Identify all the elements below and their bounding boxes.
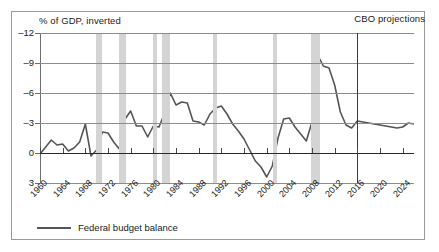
x-tick-label: 2020 [368, 178, 389, 199]
x-tick-label: 1980 [141, 178, 162, 199]
x-tick-labels-group: 1960196419681972197619801984198819921996… [0, 0, 439, 252]
x-tick-label: 1960 [28, 178, 49, 199]
x-tick-label: 1976 [119, 178, 140, 199]
chart-legend: Federal budget balance [37, 222, 178, 233]
legend-label-federal-budget-balance: Federal budget balance [78, 222, 178, 233]
x-tick-label: 1996 [232, 178, 253, 199]
x-tick-label: 2004 [277, 178, 298, 199]
legend-line-swatch [37, 227, 71, 229]
x-tick-label: 2016 [345, 178, 366, 199]
x-tick-label: 2000 [255, 178, 276, 199]
x-tick-label: 1992 [209, 178, 230, 199]
x-tick-label: 1968 [73, 178, 94, 199]
x-tick-label: 1988 [187, 178, 208, 199]
chart-figure: % of GDP, inverted CBO projections –12–9… [0, 0, 439, 252]
x-tick-label: 1972 [96, 178, 117, 199]
x-tick-label: 1964 [51, 178, 72, 199]
x-tick-label: 2024 [391, 178, 412, 199]
x-tick-label: 1984 [164, 178, 185, 199]
x-tick-label: 2008 [300, 178, 321, 199]
x-tick-label: 2012 [323, 178, 344, 199]
